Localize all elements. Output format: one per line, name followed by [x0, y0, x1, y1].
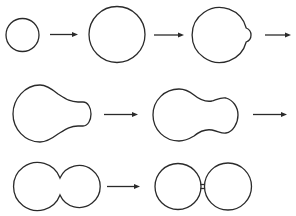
- arrow-3-icon: [265, 33, 291, 38]
- arrow-2-icon: [154, 33, 184, 38]
- stage-3-budding-cell: [192, 8, 251, 63]
- stage-1-small-cell: [6, 19, 39, 52]
- stage-2-grown-cell: [89, 7, 145, 63]
- stage-6-constricting: [14, 163, 101, 211]
- arrow-6-icon: [107, 184, 140, 189]
- stage-7-separated: [155, 163, 252, 210]
- arrow-1-icon: [50, 32, 78, 37]
- stage-5-bud-elongated: [153, 89, 238, 141]
- arrow-5-icon: [253, 112, 287, 117]
- stage-4-bud-growing: [13, 85, 91, 142]
- arrow-4-icon: [104, 112, 138, 117]
- cell-division-diagram: [0, 0, 296, 216]
